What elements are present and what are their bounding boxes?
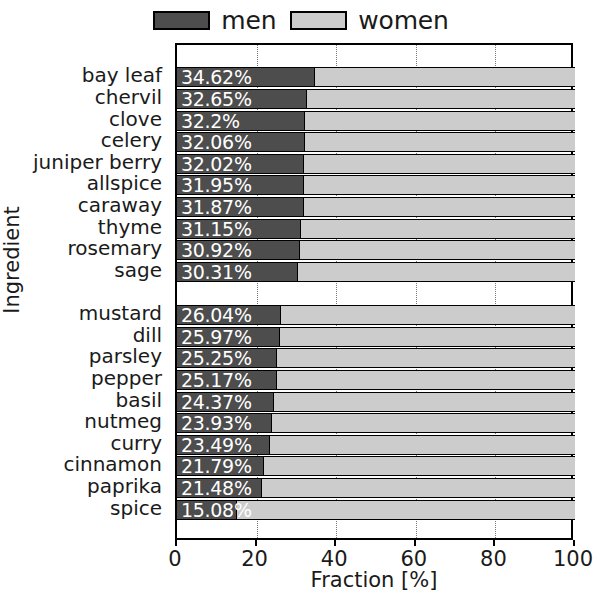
y-axis-tick-labels: bay leafchervilcloveceleryjuniper berrya… xyxy=(0,43,168,540)
bar-row: 24.37% xyxy=(177,392,571,412)
y-axis-tick-label: clove xyxy=(109,109,162,129)
x-axis-tick-mark xyxy=(334,540,336,546)
bar-segment-women[interactable] xyxy=(272,413,575,433)
bar-value-label: 23.49% xyxy=(181,435,252,455)
bar-segment-women[interactable] xyxy=(305,111,575,131)
bar-segment-women[interactable] xyxy=(281,305,575,325)
x-axis-tick-mark xyxy=(255,540,257,546)
y-axis-tick-label: curry xyxy=(110,433,162,453)
bar-row: 32.06% xyxy=(177,132,571,152)
x-axis-tick-mark xyxy=(573,540,575,546)
bar-row: 23.93% xyxy=(177,413,571,433)
plot-inner: 34.62%32.65%32.2%32.06%32.02%31.95%31.87… xyxy=(177,45,571,538)
bar-row: 34.62% xyxy=(177,67,571,87)
y-axis-tick-label: caraway xyxy=(78,195,162,215)
y-axis-tick-label: rosemary xyxy=(67,238,162,258)
legend-swatch-women-icon xyxy=(290,11,347,30)
bar-value-label: 31.87% xyxy=(181,197,252,217)
y-axis-tick-label: dill xyxy=(133,325,162,345)
y-axis-tick-label: celery xyxy=(101,130,162,150)
bar-chart-figure: men women Ingredient bay leafchervilclov… xyxy=(0,0,602,597)
bar-row: 30.31% xyxy=(177,262,571,282)
legend-swatch-men-icon xyxy=(153,11,210,30)
bar-value-label: 24.37% xyxy=(181,392,252,412)
bar-value-label: 32.06% xyxy=(181,132,252,152)
bar-segment-women[interactable] xyxy=(277,370,575,390)
legend-label-men: men xyxy=(221,8,276,33)
bar-segment-women[interactable] xyxy=(274,392,575,412)
bar-value-label: 23.93% xyxy=(181,413,252,433)
bar-segment-women[interactable] xyxy=(270,435,575,455)
x-axis-ticks: 020406080100 xyxy=(175,540,573,570)
bar-row: 32.65% xyxy=(177,89,571,109)
bar-row: 31.87% xyxy=(177,197,571,217)
legend-entry-men: men xyxy=(153,8,276,33)
bar-segment-women[interactable] xyxy=(315,67,575,87)
bar-segment-women[interactable] xyxy=(280,327,575,347)
x-axis-tick-mark xyxy=(175,540,177,546)
bar-segment-women[interactable] xyxy=(300,240,575,260)
bar-value-label: 15.08% xyxy=(181,500,252,520)
y-axis-tick-label: nutmeg xyxy=(84,411,162,431)
bar-row: 25.97% xyxy=(177,327,571,347)
x-axis-tick-mark xyxy=(414,540,416,546)
bar-value-label: 25.17% xyxy=(181,370,252,390)
legend-entry-women: women xyxy=(290,8,448,33)
y-axis-tick-label: spice xyxy=(110,498,162,518)
bar-segment-women[interactable] xyxy=(304,175,575,195)
bar-row: 30.92% xyxy=(177,240,571,260)
bar-value-label: 34.62% xyxy=(181,67,252,87)
y-axis-tick-label: bay leaf xyxy=(82,65,162,85)
bar-row: 31.95% xyxy=(177,175,571,195)
bar-row: 31.15% xyxy=(177,219,571,239)
bar-value-label: 32.02% xyxy=(181,154,252,174)
bar-row: 21.48% xyxy=(177,478,571,498)
bar-row: 15.08% xyxy=(177,500,571,520)
bar-row: 26.04% xyxy=(177,305,571,325)
y-axis-tick-label: thyme xyxy=(98,217,162,237)
bar-segment-women[interactable] xyxy=(301,219,575,239)
bar-value-label: 21.48% xyxy=(181,478,252,498)
bar-value-label: 31.95% xyxy=(181,175,252,195)
y-axis-tick-label: sage xyxy=(114,260,162,280)
y-axis-tick-label: mustard xyxy=(79,303,162,323)
bar-segment-women[interactable] xyxy=(304,197,575,217)
bar-value-label: 30.92% xyxy=(181,240,252,260)
bar-value-label: 21.79% xyxy=(181,456,252,476)
y-axis-tick-label: parsley xyxy=(89,346,162,366)
y-axis-tick-label: pepper xyxy=(91,368,162,388)
plot-area: 34.62%32.65%32.2%32.06%32.02%31.95%31.87… xyxy=(175,43,573,540)
x-axis-title: Fraction [%] xyxy=(175,568,573,592)
y-axis-tick-label: cinnamon xyxy=(63,454,162,474)
bar-value-label: 30.31% xyxy=(181,262,252,282)
bar-value-label: 26.04% xyxy=(181,305,252,325)
bar-row: 32.2% xyxy=(177,111,571,131)
bar-segment-women[interactable] xyxy=(262,478,575,498)
x-axis-tick-mark xyxy=(493,540,495,546)
bar-value-label: 32.2% xyxy=(181,111,240,131)
bar-segment-women[interactable] xyxy=(298,262,575,282)
y-axis-tick-label: basil xyxy=(116,390,162,410)
bar-row: 21.79% xyxy=(177,456,571,476)
bar-segment-women[interactable] xyxy=(264,456,575,476)
bar-row: 25.25% xyxy=(177,348,571,368)
bar-row: 25.17% xyxy=(177,370,571,390)
y-axis-tick-label: chervil xyxy=(95,87,162,107)
chart-legend: men women xyxy=(0,2,602,38)
legend-label-women: women xyxy=(358,8,448,33)
y-axis-tick-label: juniper berry xyxy=(33,152,162,172)
bar-segment-women[interactable] xyxy=(305,132,575,152)
bar-value-label: 32.65% xyxy=(181,89,252,109)
bar-value-label: 25.97% xyxy=(181,327,252,347)
bar-segment-women[interactable] xyxy=(307,89,575,109)
y-axis-tick-label: paprika xyxy=(87,476,162,496)
bar-row: 23.49% xyxy=(177,435,571,455)
bar-value-label: 31.15% xyxy=(181,219,252,239)
bar-segment-women[interactable] xyxy=(277,348,575,368)
bar-row: 32.02% xyxy=(177,154,571,174)
y-axis-tick-label: allspice xyxy=(87,173,162,193)
bar-segment-women[interactable] xyxy=(304,154,575,174)
bar-segment-women[interactable] xyxy=(237,500,575,520)
bar-value-label: 25.25% xyxy=(181,348,252,368)
